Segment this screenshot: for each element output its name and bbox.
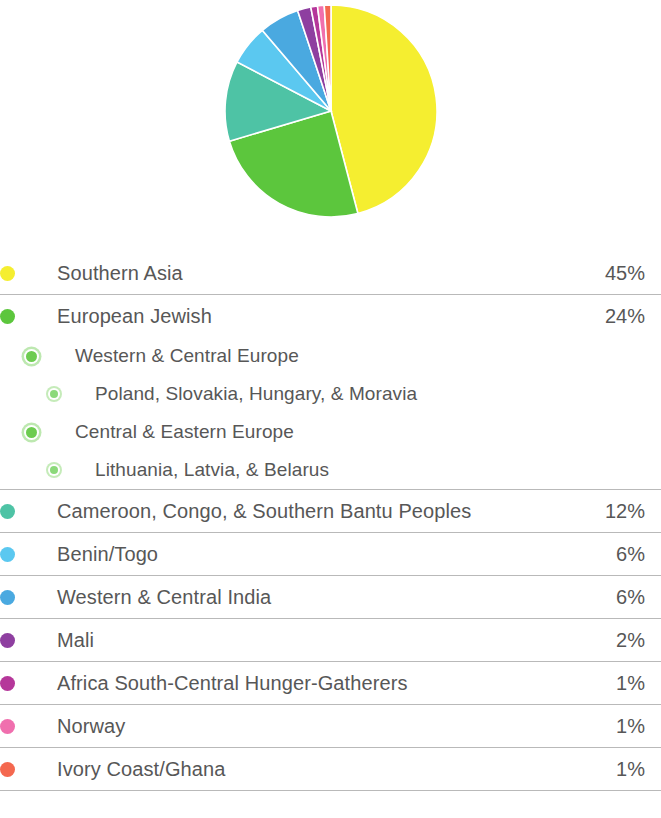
legend-row-poland-slovakia-hungary-moravia[interactable]: Poland, Slovakia, Hungary, & Moravia <box>0 375 661 413</box>
legend-color-dot-icon <box>0 266 15 281</box>
legend-label: Lithuania, Latvia, & Belarus <box>95 459 595 481</box>
legend-label: Central & Eastern Europe <box>75 421 595 443</box>
legend-percent-value: 1% <box>595 672 653 695</box>
ethnicity-legend-list: Southern Asia45%European Jewish24%Wester… <box>0 252 661 791</box>
legend-percent-value: 1% <box>595 715 653 738</box>
legend-dot-cell <box>0 676 57 691</box>
legend-percent-value: 45% <box>595 262 653 285</box>
legend-color-dot-icon <box>26 427 37 438</box>
legend-group: Western & Central India6% <box>0 576 661 619</box>
legend-label: Cameroon, Congo, & Southern Bantu People… <box>57 500 595 523</box>
legend-percent-value: 1% <box>595 758 653 781</box>
legend-color-dot-icon <box>0 309 15 324</box>
legend-group: Norway1% <box>0 705 661 748</box>
legend-color-dot-icon <box>50 466 58 474</box>
legend-dot-cell <box>0 390 95 398</box>
legend-label: Ivory Coast/Ghana <box>57 758 595 781</box>
legend-dot-cell <box>0 351 75 362</box>
legend-label: Africa South-Central Hunger-Gatherers <box>57 672 595 695</box>
legend-color-dot-icon <box>0 504 15 519</box>
legend-dot-cell <box>0 547 57 562</box>
ethnicity-pie-chart-area <box>0 0 661 240</box>
legend-label: Southern Asia <box>57 262 595 285</box>
legend-color-dot-icon <box>26 351 37 362</box>
legend-row-lithuania-latvia-belarus[interactable]: Lithuania, Latvia, & Belarus <box>0 451 661 489</box>
legend-label: Western & Central Europe <box>75 345 595 367</box>
legend-row-mali[interactable]: Mali2% <box>0 619 661 661</box>
legend-label: Western & Central India <box>57 586 595 609</box>
legend-row-european-jewish[interactable]: European Jewish24% <box>0 295 661 337</box>
legend-row-southern-asia[interactable]: Southern Asia45% <box>0 252 661 294</box>
legend-percent-value: 6% <box>595 586 653 609</box>
legend-group: Mali2% <box>0 619 661 662</box>
legend-percent-value: 24% <box>595 305 653 328</box>
legend-color-dot-icon <box>50 390 58 398</box>
legend-group: Ivory Coast/Ghana1% <box>0 748 661 791</box>
legend-dot-cell <box>0 266 57 281</box>
legend-row-africa-south-central-hunger-gatherers[interactable]: Africa South-Central Hunger-Gatherers1% <box>0 662 661 704</box>
legend-dot-cell <box>0 309 57 324</box>
pie-chart-svg <box>224 4 438 218</box>
legend-percent-value: 2% <box>595 629 653 652</box>
legend-label: Norway <box>57 715 595 738</box>
legend-group: Cameroon, Congo, & Southern Bantu People… <box>0 490 661 533</box>
legend-label: European Jewish <box>57 305 595 328</box>
legend-dot-cell <box>0 633 57 648</box>
pie-chart[interactable] <box>224 4 438 218</box>
legend-dot-cell <box>0 719 57 734</box>
legend-color-dot-icon <box>0 719 15 734</box>
legend-dot-cell <box>0 762 57 777</box>
legend-percent-value: 12% <box>595 500 653 523</box>
legend-group: Southern Asia45% <box>0 252 661 295</box>
legend-row-benin-togo[interactable]: Benin/Togo6% <box>0 533 661 575</box>
legend-dot-cell <box>0 427 75 438</box>
legend-group: Benin/Togo6% <box>0 533 661 576</box>
legend-dot-cell <box>0 504 57 519</box>
legend-row-western-central-india[interactable]: Western & Central India6% <box>0 576 661 618</box>
legend-row-cameroon-congo-southern-bantu-peoples[interactable]: Cameroon, Congo, & Southern Bantu People… <box>0 490 661 532</box>
legend-row-ivory-coast-ghana[interactable]: Ivory Coast/Ghana1% <box>0 748 661 790</box>
legend-row-norway[interactable]: Norway1% <box>0 705 661 747</box>
legend-group: Africa South-Central Hunger-Gatherers1% <box>0 662 661 705</box>
legend-dot-cell <box>0 466 95 474</box>
legend-color-dot-icon <box>0 547 15 562</box>
legend-row-central-eastern-europe[interactable]: Central & Eastern Europe <box>0 413 661 451</box>
legend-label: Poland, Slovakia, Hungary, & Moravia <box>95 383 595 405</box>
legend-color-dot-icon <box>0 590 15 605</box>
legend-row-western-central-europe[interactable]: Western & Central Europe <box>0 337 661 375</box>
legend-group: European Jewish24%Western & Central Euro… <box>0 295 661 490</box>
legend-color-dot-icon <box>0 676 15 691</box>
legend-label: Benin/Togo <box>57 543 595 566</box>
legend-label: Mali <box>57 629 595 652</box>
legend-dot-cell <box>0 590 57 605</box>
legend-color-dot-icon <box>0 762 15 777</box>
legend-percent-value: 6% <box>595 543 653 566</box>
legend-color-dot-icon <box>0 633 15 648</box>
